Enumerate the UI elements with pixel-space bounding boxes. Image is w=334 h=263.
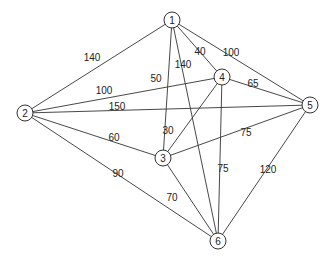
edge-3-5 xyxy=(163,105,310,158)
edge-4-5 xyxy=(222,77,310,105)
edge-3-4 xyxy=(163,77,222,158)
edge-weight-label: 150 xyxy=(109,101,126,112)
edge-weight-label: 140 xyxy=(175,59,192,70)
edge-4-6 xyxy=(218,77,222,241)
edge-1-2 xyxy=(25,20,172,113)
edge-1-5 xyxy=(172,20,310,105)
edge-weight-label: 75 xyxy=(217,163,229,174)
node-2: 2 xyxy=(17,105,33,121)
edge-weight-label: 65 xyxy=(247,78,259,89)
edge-1-3 xyxy=(163,20,172,158)
edge-weights-group: 140501404010010015060906530757570120 xyxy=(84,46,277,203)
node-label: 4 xyxy=(219,72,225,83)
edge-weight-label: 30 xyxy=(162,125,174,136)
node-label: 1 xyxy=(169,15,175,26)
node-6: 6 xyxy=(210,233,226,249)
edge-weight-label: 90 xyxy=(112,168,124,179)
node-label: 5 xyxy=(307,100,313,111)
edge-weight-label: 100 xyxy=(96,85,113,96)
edge-weight-label: 50 xyxy=(150,73,162,84)
edge-weight-label: 100 xyxy=(223,47,240,58)
node-label: 6 xyxy=(215,236,221,247)
node-3: 3 xyxy=(155,150,171,166)
edge-2-5 xyxy=(25,105,310,113)
edge-2-3 xyxy=(25,113,163,158)
edge-weight-label: 40 xyxy=(194,46,206,57)
node-4: 4 xyxy=(214,69,230,85)
edge-weight-label: 70 xyxy=(166,192,178,203)
weighted-graph-diagram: 140501404010010015060906530757570120 123… xyxy=(0,0,334,263)
node-1: 1 xyxy=(164,12,180,28)
edge-weight-label: 75 xyxy=(240,127,252,138)
node-label: 3 xyxy=(160,153,166,164)
edge-weight-label: 60 xyxy=(108,132,120,143)
node-5: 5 xyxy=(302,97,318,113)
edge-weight-label: 140 xyxy=(84,52,101,63)
edge-weight-label: 120 xyxy=(260,164,277,175)
node-label: 2 xyxy=(22,108,28,119)
